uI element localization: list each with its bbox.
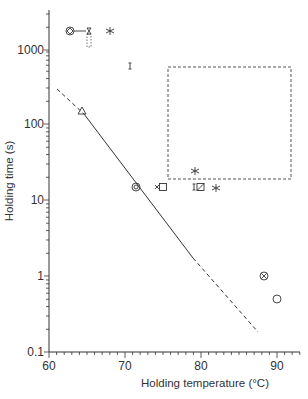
marker-circle <box>273 295 281 303</box>
y-tick-10: 10 <box>31 193 45 207</box>
marker-hourglass <box>87 28 91 47</box>
y-tick-1000: 1000 <box>17 43 44 57</box>
x-tick-90: 90 <box>270 359 284 373</box>
marker-x-square <box>155 184 167 191</box>
marker-circle-x <box>260 272 268 280</box>
x-tick-labels: 60 70 80 90 <box>42 359 284 373</box>
marker-asterisk-2 <box>191 167 199 175</box>
dashed-region-box <box>168 67 291 179</box>
y-tick-100: 100 <box>24 117 44 131</box>
marker-asterisk-3 <box>212 184 220 192</box>
y-ticks <box>44 14 49 352</box>
marker-error-bar <box>129 63 132 69</box>
marker-I-slashed-square <box>193 184 205 191</box>
marker-triangle <box>78 107 86 114</box>
marker-circle-diamond <box>66 27 86 35</box>
chart: 1000 100 10 1 0.1 60 70 80 90 Holding te… <box>0 0 308 399</box>
x-tick-60: 60 <box>42 359 56 373</box>
x-ticks <box>49 352 300 358</box>
data-markers <box>66 27 281 303</box>
x-tick-70: 70 <box>118 359 132 373</box>
y-tick-1: 1 <box>37 269 44 283</box>
marker-asterisk <box>106 27 114 35</box>
x-axis-title: Holding temperature (°C) <box>141 377 269 389</box>
trend-line <box>57 89 258 332</box>
y-axis-title: Holding time (s) <box>3 141 15 222</box>
y-axis <box>49 10 300 352</box>
y-tick-labels: 1000 100 10 1 0.1 <box>17 43 44 359</box>
y-tick-0.1: 0.1 <box>27 345 44 359</box>
x-tick-80: 80 <box>194 359 208 373</box>
